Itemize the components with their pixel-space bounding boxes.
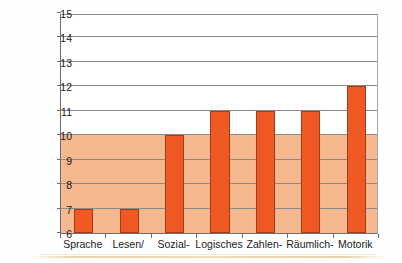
x-category-label: Sprache: [63, 238, 102, 250]
gridline: [61, 61, 377, 62]
y-tick-label: 12: [50, 81, 72, 93]
x-category-label: Sozial-: [158, 238, 190, 250]
x-tick-mark: [378, 234, 379, 238]
y-tick-label: 7: [50, 204, 72, 216]
page-rule-secondary: [40, 254, 376, 255]
y-tick-label: 14: [50, 32, 72, 44]
x-category-label: Logisches: [195, 238, 242, 250]
x-tick-mark: [151, 234, 152, 238]
y-tick-label: 10: [50, 130, 72, 142]
bar: [210, 111, 229, 233]
chart-figure: Entwicklungsalter in Jahren 678910111213…: [0, 0, 402, 263]
bar: [256, 111, 275, 233]
y-tick-label: 13: [50, 57, 72, 69]
y-tick-label: 9: [50, 155, 72, 167]
bar: [165, 135, 184, 233]
bar: [301, 111, 320, 233]
gridline: [61, 36, 377, 37]
x-category-label: Lesen/: [112, 238, 144, 250]
bar: [347, 86, 366, 233]
x-tick-mark: [105, 234, 106, 238]
gridline: [61, 85, 377, 86]
x-category-label: Zahlen-: [247, 238, 283, 250]
y-tick-label: 11: [50, 106, 72, 118]
x-category-label: Motorik: [338, 238, 372, 250]
y-tick-label: 8: [50, 179, 72, 191]
bar: [74, 209, 93, 233]
y-tick-label: 15: [50, 8, 72, 20]
plot-area: [60, 14, 378, 234]
x-tick-mark: [60, 234, 61, 238]
page-rule: [28, 256, 388, 258]
bar: [120, 209, 139, 233]
x-category-label: Räumlich-: [286, 238, 333, 250]
